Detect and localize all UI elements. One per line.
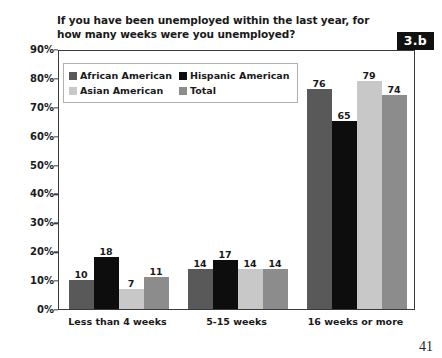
y-axis-tick-mark (54, 165, 58, 166)
y-axis-tick-label: 30% (8, 218, 54, 228)
y-axis-tick-mark (54, 49, 58, 50)
y-axis-tick-label: 50% (8, 161, 54, 171)
bar-value-label: 18 (99, 247, 112, 257)
y-axis-tick-mark (54, 309, 58, 310)
legend-swatch-icon (69, 87, 77, 95)
legend-item[interactable]: Asian American (69, 85, 177, 96)
bar (144, 277, 169, 309)
bar (357, 81, 382, 309)
bar (263, 269, 288, 309)
y-axis-tick-mark (54, 223, 58, 224)
x-axis-group-label: 16 weeks or more (308, 316, 404, 327)
legend-item[interactable]: Hispanic American (179, 70, 289, 81)
legend-swatch-icon (69, 72, 77, 80)
x-axis-group-label: 5-15 weeks (206, 316, 267, 327)
y-axis-tick-label: 90% (8, 45, 54, 55)
y-axis-tick-mark (54, 107, 58, 108)
y-axis-tick-mark (54, 280, 58, 281)
legend-swatch-icon (179, 72, 187, 80)
y-axis-tick-mark (54, 252, 58, 253)
bar (119, 289, 144, 309)
legend-swatch-icon (179, 87, 187, 95)
chart-legend: African AmericanHispanic AmericanAsian A… (63, 63, 298, 103)
bar-value-label: 79 (362, 71, 375, 81)
y-axis-tick-mark (54, 194, 58, 195)
y-axis-tick-label: 10% (8, 276, 54, 286)
bar-value-label: 14 (243, 259, 256, 269)
legend-item[interactable]: Total (179, 85, 289, 96)
bar-value-label: 17 (218, 250, 231, 260)
y-axis-tick-label: 0% (8, 305, 54, 315)
bar-value-label: 14 (193, 259, 206, 269)
legend-label: Total (190, 85, 216, 96)
legend-label: African American (80, 70, 172, 81)
y-axis-tick-label: 40% (8, 189, 54, 199)
y-axis-tick-label: 20% (8, 247, 54, 257)
x-axis-group-label: Less than 4 weeks (68, 316, 166, 327)
bar-value-label: 76 (312, 79, 325, 89)
bar-value-label: 11 (149, 267, 162, 277)
y-axis-tick-label: 80% (8, 74, 54, 84)
bar (332, 121, 357, 309)
y-axis-tick-mark (54, 136, 58, 137)
bar (94, 257, 119, 309)
page-number: 41 (419, 339, 433, 355)
bar-value-label: 74 (387, 85, 400, 95)
bar-value-label: 14 (268, 259, 281, 269)
bar-value-label: 65 (337, 111, 350, 121)
chart-plot-area: African AmericanHispanic AmericanAsian A… (58, 50, 415, 310)
bar-value-label: 10 (74, 270, 87, 280)
bar (307, 89, 332, 309)
page-title: If you have been unemployed within the l… (57, 14, 372, 41)
legend-item[interactable]: African American (69, 70, 177, 81)
bar-value-label: 7 (128, 279, 135, 289)
bar (69, 280, 94, 309)
figure-badge: 3.b (397, 32, 434, 50)
legend-label: Hispanic American (190, 70, 289, 81)
y-axis-tick-mark (54, 78, 58, 79)
legend-label: Asian American (80, 85, 163, 96)
y-axis-tick-label: 60% (8, 132, 54, 142)
bar (238, 269, 263, 309)
bar (188, 269, 213, 309)
y-axis-tick-label: 70% (8, 103, 54, 113)
bar (213, 260, 238, 309)
bar (382, 95, 407, 309)
